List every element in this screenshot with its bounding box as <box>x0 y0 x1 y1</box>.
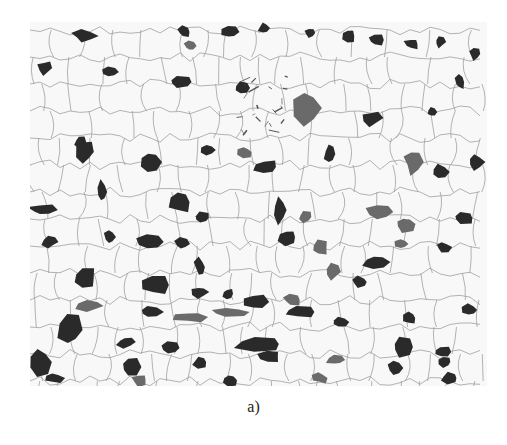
figure: a) <box>0 0 507 445</box>
figure-caption: a) <box>0 398 507 416</box>
micrograph-image <box>30 22 487 386</box>
